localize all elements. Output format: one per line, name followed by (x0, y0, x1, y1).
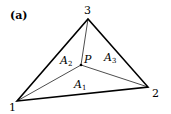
vertex-label-3: 3 (84, 4, 91, 17)
area-label-a2: A2 (59, 54, 72, 68)
vertex-label-2: 2 (152, 87, 159, 100)
area-label-a3: A3 (103, 51, 116, 65)
point-p-label: P (83, 53, 92, 66)
vertex-label-1: 1 (9, 101, 16, 114)
area-label-a1: A1 (73, 78, 86, 92)
triangle-diagram: (a) 3 1 2 P A2 A3 A1 (0, 0, 171, 114)
point-p-dot (80, 64, 83, 67)
panel-label: (a) (10, 9, 28, 22)
